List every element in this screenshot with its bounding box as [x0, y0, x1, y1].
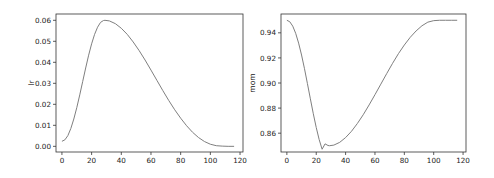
x-tick-label: 20 [87, 156, 97, 165]
plot-frame [56, 14, 243, 152]
x-tick-label: 100 [203, 156, 217, 165]
y-tick-label: 0.00 [35, 142, 51, 151]
y-tick-label: 0.02 [35, 100, 51, 109]
x-tick-label: 0 [60, 156, 65, 165]
y-tick-label: 0.06 [35, 16, 51, 25]
x-tick-label: 100 [427, 156, 441, 165]
x-tick-label: 120 [456, 156, 470, 165]
x-tick-label: 120 [233, 156, 247, 165]
y-tick-label: 0.94 [260, 28, 276, 37]
plot-frame [281, 14, 466, 152]
mom-series-line [287, 20, 457, 149]
y-axis-label: lr [27, 80, 36, 86]
y-tick-label: 0.88 [260, 104, 276, 113]
figure: 0204060801001200.000.010.020.030.040.050… [0, 0, 494, 178]
mom-chart: 0204060801001200.860.880.900.920.94mom [248, 14, 470, 165]
lr-series-line [62, 20, 234, 146]
x-tick-label: 20 [312, 156, 322, 165]
y-tick-label: 0.90 [260, 79, 276, 88]
x-tick-label: 80 [400, 156, 410, 165]
y-tick-label: 0.04 [35, 58, 51, 67]
x-tick-label: 40 [341, 156, 351, 165]
x-tick-label: 80 [176, 156, 186, 165]
y-tick-label: 0.03 [35, 79, 51, 88]
x-tick-label: 0 [285, 156, 290, 165]
x-tick-label: 40 [117, 156, 127, 165]
y-tick-label: 0.86 [260, 129, 276, 138]
x-tick-label: 60 [146, 156, 156, 165]
y-axis-label: mom [248, 73, 257, 92]
lr-chart: 0204060801001200.000.010.020.030.040.050… [27, 14, 247, 165]
x-tick-label: 60 [370, 156, 380, 165]
y-tick-label: 0.05 [35, 37, 51, 46]
y-tick-label: 0.01 [35, 121, 51, 130]
y-tick-label: 0.92 [260, 54, 276, 63]
